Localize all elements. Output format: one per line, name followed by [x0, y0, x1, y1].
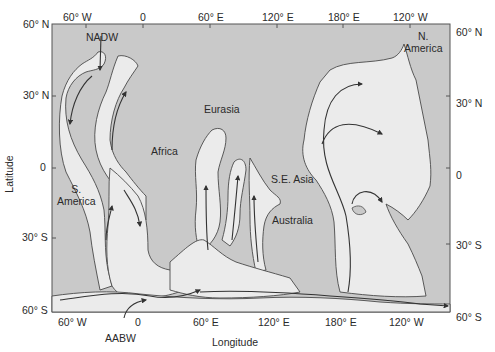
bottom-tick-120e: 120° E — [258, 317, 290, 328]
left-tick-60n: 60° N — [23, 19, 49, 30]
region-north-america: N. America — [404, 30, 443, 54]
region-australia: Australia — [272, 214, 313, 226]
top-tick-120e: 120° E — [262, 12, 294, 23]
left-tick-30s: 30° S — [22, 232, 48, 243]
label-aabw: AABW — [105, 332, 136, 344]
bottom-tick-120w: 120° W — [389, 317, 424, 328]
right-tick-60n: 60° N — [456, 27, 482, 38]
left-tick-30n: 30° N — [23, 90, 49, 101]
region-africa: Africa — [151, 145, 178, 157]
top-tick-60e: 60° E — [198, 12, 224, 23]
label-nadw: NADW — [86, 31, 118, 43]
region-south-america: S. America — [57, 183, 96, 207]
right-tick-30n: 30° N — [456, 98, 482, 109]
left-tick-0: 0 — [40, 162, 46, 173]
right-tick-30s: 30° S — [456, 240, 482, 251]
top-tick-60w: 60° W — [63, 12, 92, 23]
y-axis-title: Latitude — [3, 155, 15, 192]
region-se-asia: S.E. Asia — [271, 173, 314, 185]
bottom-tick-60w: 60° W — [58, 317, 87, 328]
x-axis-title: Longitude — [212, 336, 258, 348]
right-tick-0: 0 — [456, 170, 462, 181]
top-tick-120w: 120° W — [393, 12, 428, 23]
right-tick-60s: 60° S — [456, 312, 482, 323]
region-eurasia: Eurasia — [204, 103, 240, 115]
top-tick-180e: 180° E — [328, 12, 360, 23]
left-tick-60s: 60° S — [22, 305, 48, 316]
bottom-tick-180e: 180° E — [325, 317, 357, 328]
top-tick-0: 0 — [140, 12, 146, 23]
bottom-tick-60e: 60° E — [193, 317, 219, 328]
bottom-tick-0: 0 — [135, 317, 141, 328]
